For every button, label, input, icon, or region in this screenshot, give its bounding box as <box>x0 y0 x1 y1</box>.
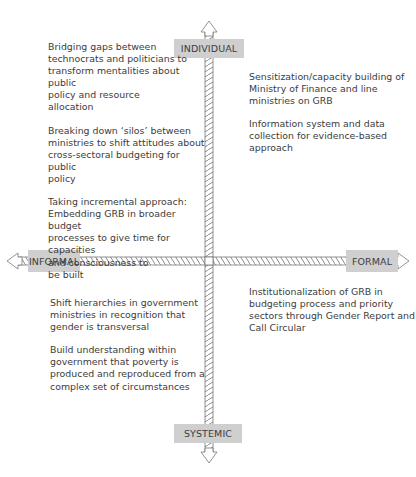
grb-quadrant-diagram: INDIVIDUAL SYSTEMIC INFORMAL FORMAL Brid… <box>0 0 416 477</box>
quadrant-top-left: Bridging gaps between technocrats and po… <box>48 41 208 292</box>
quadrant-item: Taking incremental approach: Embedding G… <box>48 196 208 281</box>
quadrant-item: Breaking down ‘silos’ between ministries… <box>48 125 208 185</box>
arrow-left-icon <box>7 253 22 269</box>
quadrant-item: Build understanding within government th… <box>50 344 210 392</box>
arrow-up-icon <box>201 21 217 36</box>
quadrant-bottom-right: Institutionalization of GRB in budgeting… <box>249 286 416 345</box>
quadrant-bottom-left: Shift hierarchies in government ministri… <box>50 297 210 404</box>
quadrant-item: Information system and data collection f… <box>249 118 416 154</box>
axis-label-systemic: SYSTEMIC <box>174 424 242 443</box>
quadrant-item: Institutionalization of GRB in budgeting… <box>249 286 416 334</box>
quadrant-item: Sensitization/capacity building of Minis… <box>249 71 416 107</box>
quadrant-item: Bridging gaps between technocrats and po… <box>48 41 208 114</box>
arrow-down-icon <box>201 448 217 463</box>
quadrant-item: Shift hierarchies in government ministri… <box>50 297 210 333</box>
axis-label-formal: FORMAL <box>346 250 398 272</box>
quadrant-top-right: Sensitization/capacity building of Minis… <box>249 71 416 166</box>
